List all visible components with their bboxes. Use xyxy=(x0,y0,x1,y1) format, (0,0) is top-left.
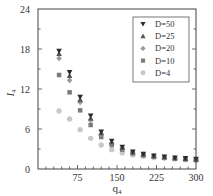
x-tick-label: 300 xyxy=(189,172,204,183)
svg-text:I4: I4 xyxy=(4,89,18,98)
data-point xyxy=(67,70,73,75)
data-point xyxy=(77,95,83,100)
y-tick-label: 12 xyxy=(20,84,30,95)
series-d-4 xyxy=(56,108,198,163)
x-axis-label-sub: 4 xyxy=(118,188,122,196)
data-point xyxy=(77,127,82,132)
data-point xyxy=(88,113,94,118)
x-tick-label: 225 xyxy=(149,172,164,183)
data-point xyxy=(56,56,62,62)
data-point xyxy=(67,78,73,84)
legend-marker-square-icon xyxy=(141,59,145,63)
data-point xyxy=(57,73,61,77)
legend-label: D=25 xyxy=(155,31,174,41)
x-tick-label: 75 xyxy=(73,172,83,183)
data-point xyxy=(88,136,93,141)
data-point xyxy=(109,147,114,152)
y-tick-label: 18 xyxy=(20,44,30,55)
legend-label: D=4 xyxy=(155,68,171,78)
y-tick-label: 6 xyxy=(25,124,30,135)
series-d-10 xyxy=(57,73,198,162)
data-point xyxy=(67,116,72,121)
y-tick-label: 0 xyxy=(25,164,30,175)
data-point xyxy=(67,90,71,94)
x-axis-label: q4 xyxy=(113,182,123,196)
legend: D=50D=25D=20D=10D=4 xyxy=(133,17,189,82)
data-point xyxy=(56,108,61,113)
data-point xyxy=(88,123,92,127)
y-axis-label-sub: 4 xyxy=(10,89,18,93)
line-scatter-chart: 7515022530006121824 I4 q4 D=50D=25D=20D=… xyxy=(0,0,213,196)
y-axis-label: I4 xyxy=(4,89,18,98)
y-tick-label: 24 xyxy=(20,4,30,15)
legend-label: D=10 xyxy=(155,56,174,66)
data-point xyxy=(99,142,104,147)
legend-label: D=20 xyxy=(155,43,174,53)
legend-marker-circle-icon xyxy=(141,70,146,75)
legend-label: D=50 xyxy=(155,19,174,29)
data-point xyxy=(78,108,82,112)
data-point xyxy=(56,49,62,54)
